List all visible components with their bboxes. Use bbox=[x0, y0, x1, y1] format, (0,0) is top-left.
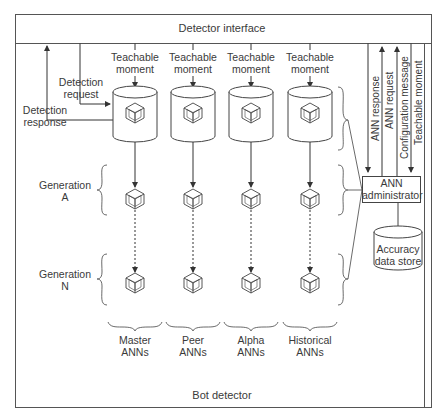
generation-n-brace bbox=[97, 254, 107, 305]
column-alpha bbox=[229, 44, 273, 294]
master-anns-label: MasterANNs bbox=[105, 334, 165, 358]
alpha-anns-brace bbox=[224, 322, 278, 331]
historical-anns-label: HistoricalANNs bbox=[280, 334, 340, 358]
historical-anns-brace bbox=[283, 322, 337, 331]
ann-administrator-label: ANNadministrator bbox=[362, 177, 421, 201]
column-master-top-label: Teachablemoment bbox=[105, 51, 165, 75]
generation-n-label: GenerationN bbox=[35, 268, 95, 292]
column-peer bbox=[171, 44, 215, 294]
column-historical bbox=[288, 44, 332, 294]
detector-interface-label: Detector interface bbox=[0, 22, 444, 34]
detection-response-label: Detection response bbox=[20, 104, 70, 128]
generation-a-label: GenerationA bbox=[35, 179, 95, 203]
ann-response-label: ANN response bbox=[370, 75, 381, 142]
bot-detector-label: Bot detector bbox=[0, 389, 444, 401]
generation-a-brace bbox=[97, 165, 107, 215]
master-anns-brace bbox=[108, 322, 162, 331]
column-master bbox=[113, 44, 157, 294]
peer-anns-brace bbox=[166, 322, 220, 331]
alpha-anns-label: AlphaANNs bbox=[221, 334, 281, 358]
configuration-message-label: Configuration message bbox=[399, 55, 410, 160]
ann-request-label: ANN request bbox=[384, 71, 395, 130]
column-peer-top-label: Teachablemoment bbox=[163, 51, 223, 75]
column-historical-top-label: Teachablemoment bbox=[280, 51, 340, 75]
detection-request-label: Detection request bbox=[56, 76, 106, 100]
teachable-moment-label: Teachable moment bbox=[413, 60, 424, 147]
peer-anns-label: PeerANNs bbox=[163, 334, 223, 358]
accuracy-data-store-label: Accuracydata store bbox=[374, 243, 422, 267]
column-alpha-top-label: Teachablemoment bbox=[221, 51, 281, 75]
